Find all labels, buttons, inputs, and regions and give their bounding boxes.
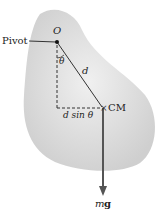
pivot-point: [55, 40, 59, 44]
svg-text:×: ×: [100, 103, 108, 113]
lever-arm-label: d sin θ: [63, 110, 93, 120]
origin-label: O: [53, 25, 61, 36]
rigid-body: [24, 10, 155, 171]
distance-label: d: [82, 65, 88, 76]
cm-label: CM: [108, 102, 126, 113]
theta-label: θ: [59, 56, 64, 66]
pivot-label: Pivot: [2, 35, 28, 46]
weight-arrow-head: [99, 186, 107, 196]
weight-label-g: g: [104, 198, 111, 209]
